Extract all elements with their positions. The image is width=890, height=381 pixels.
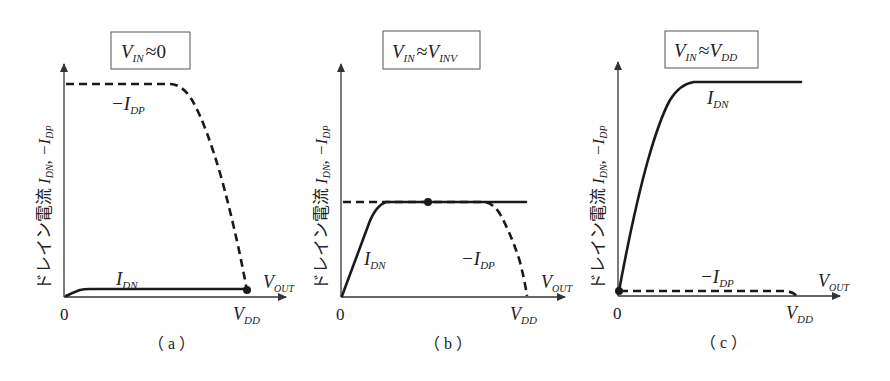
label-vout-c: VOUT <box>818 271 850 293</box>
label-vdd-b: VDD <box>510 304 537 326</box>
curve-idn-a <box>66 289 247 296</box>
svg-text:ドレイン電流: ドレイン電流 <box>311 188 331 290</box>
label-idn-b: IDN <box>363 248 386 271</box>
svg-text:IDN, −IDP: IDN, −IDP <box>312 125 332 185</box>
label-idn-c: IDN <box>706 87 729 110</box>
panel-c: VIN≈VDD ドレイン電流 IDN, −IDP IDN −IDP VOUT 0… <box>588 31 850 351</box>
caption-a: （ a ） <box>148 335 195 352</box>
y-axis-label-c: ドレイン電流 IDN, −IDP <box>588 125 609 290</box>
y-axis-label-b: ドレイン電流 IDN, −IDP <box>311 125 332 290</box>
curve-minus-idp-a <box>66 84 247 291</box>
caption-c: （ c ） <box>700 334 747 351</box>
label-vout-a: VOUT <box>263 272 295 294</box>
panel-a: VIN≈0 ドレイン電流 IDN, −IDP −IDP IDN VOUT 0 V… <box>34 32 295 352</box>
label-idn-a: IDN <box>115 268 138 291</box>
svg-text:IDN, −IDP: IDN, −IDP <box>589 125 609 185</box>
operating-point-c <box>615 287 623 295</box>
svg-text:IDN, −IDP: IDN, −IDP <box>35 125 55 185</box>
panel-b: VIN≈VINV ドレイン電流 IDN, −IDP IDN −IDP VOUT … <box>311 31 573 352</box>
svg-text:ドレイン電流: ドレイン電流 <box>34 188 54 290</box>
svg-text:ドレイン電流: ドレイン電流 <box>588 188 608 290</box>
label-origin-a: 0 <box>60 305 69 324</box>
operating-point-a <box>243 286 251 294</box>
y-axis-label-a: ドレイン電流 IDN, −IDP <box>34 125 55 290</box>
cmos-inverter-current-diagram: VIN≈0 ドレイン電流 IDN, −IDP −IDP IDN VOUT 0 V… <box>0 0 890 381</box>
curve-minus-idp-c <box>620 291 797 296</box>
label-origin-b: 0 <box>336 305 345 324</box>
label-minus-idp-a: −IDP <box>111 93 145 116</box>
label-minus-idp-b: −IDP <box>461 248 495 271</box>
condition-box-c: VIN≈VDD <box>665 31 758 68</box>
label-vdd-a: VDD <box>233 304 260 326</box>
label-vout-b: VOUT <box>541 272 573 294</box>
label-minus-idp-c: −IDP <box>700 266 734 289</box>
operating-point-b <box>424 198 432 206</box>
caption-b: （ b ） <box>424 335 472 352</box>
curve-minus-idp-b <box>343 202 527 296</box>
label-vdd-c: VDD <box>786 303 813 325</box>
condition-box-a: VIN≈0 <box>111 32 190 69</box>
curve-idn-c <box>619 82 801 291</box>
label-origin-c: 0 <box>613 304 622 323</box>
condition-box-b: VIN≈VINV <box>383 31 480 69</box>
